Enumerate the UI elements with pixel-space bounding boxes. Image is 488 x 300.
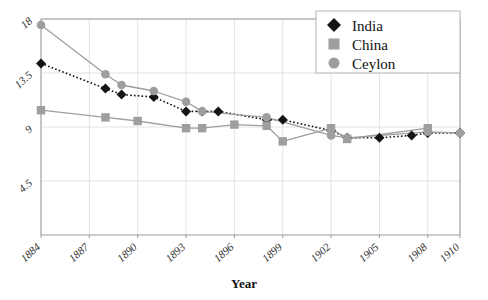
- data-point-india: [407, 130, 417, 140]
- data-point-india: [181, 106, 191, 116]
- data-point-ceylon: [182, 98, 191, 107]
- data-point-ceylon: [101, 70, 110, 79]
- x-axis-title: Year: [231, 276, 257, 291]
- data-point-ceylon: [262, 113, 271, 122]
- data-point-ceylon: [456, 129, 465, 138]
- x-tick-label: 1896: [211, 240, 236, 264]
- x-tick-label: 1905: [356, 240, 381, 264]
- data-point-ceylon: [150, 87, 159, 96]
- data-point-ceylon: [423, 128, 432, 137]
- x-tick-label: 1899: [260, 240, 285, 264]
- x-tick-label: 1893: [163, 240, 188, 264]
- y-tick-label: 13.5: [12, 68, 35, 90]
- x-tick-label: 1908: [405, 240, 430, 264]
- y-tick-label: 18: [18, 14, 35, 31]
- data-point-ceylon: [198, 107, 207, 116]
- data-point-india: [100, 84, 110, 94]
- chart-container: 1884188718901893189618991902190519081910…: [0, 0, 488, 300]
- legend-marker-ceylon: [329, 58, 340, 69]
- data-point-ceylon: [327, 131, 336, 140]
- data-point-china: [262, 122, 270, 130]
- x-tick-label: 1890: [115, 240, 140, 264]
- x-tick-label: 1884: [18, 240, 43, 264]
- data-point-china: [279, 137, 287, 145]
- line-chart: 1884188718901893189618991902190519081910…: [0, 0, 488, 300]
- data-point-ceylon: [117, 81, 126, 90]
- x-tick-label: 1887: [66, 240, 91, 264]
- legend-marker-china: [329, 39, 340, 50]
- data-point-india: [117, 90, 127, 100]
- data-point-china: [198, 124, 206, 132]
- x-tick-label: 1910: [437, 240, 462, 264]
- y-tick-label: 4.5: [16, 176, 35, 194]
- legend-label-india: India: [352, 18, 383, 34]
- y-tick-labels: 1813.594.5: [12, 14, 35, 194]
- data-point-china: [230, 120, 238, 128]
- legend: IndiaChinaCeylon: [316, 11, 460, 73]
- data-point-ceylon: [37, 21, 46, 30]
- data-point-ceylon: [343, 134, 352, 143]
- legend-label-china: China: [352, 37, 388, 53]
- data-point-china: [182, 124, 190, 132]
- y-tick-label: 9: [22, 122, 34, 135]
- data-point-china: [101, 113, 109, 121]
- x-tick-label: 1902: [308, 240, 333, 264]
- data-point-india: [213, 106, 223, 116]
- x-tick-labels: 1884188718901893189618991902190519081910: [18, 235, 462, 264]
- data-point-china: [133, 117, 141, 125]
- data-point-india: [36, 58, 46, 68]
- data-point-china: [37, 106, 45, 114]
- legend-label-ceylon: Ceylon: [352, 56, 396, 72]
